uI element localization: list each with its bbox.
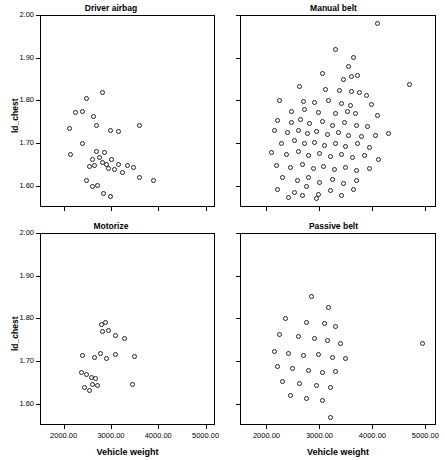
data-point [67, 126, 72, 131]
data-point [137, 175, 142, 180]
x-tick-label: 5000.00 [186, 431, 226, 440]
x-tick-mark [372, 207, 373, 211]
x-tick-label: 3000.00 [299, 431, 339, 440]
data-point [80, 141, 85, 146]
data-point [106, 328, 111, 333]
data-point [295, 178, 300, 183]
x-tick-label: 2000.00 [44, 431, 84, 440]
y-tick-mark [236, 15, 240, 16]
data-point [292, 138, 297, 143]
x-tick-label: 4000.00 [352, 431, 392, 440]
data-point [304, 320, 309, 325]
data-point [125, 163, 130, 168]
scatter-matrix-figure: Driver airbag 1.601.701.801.902.00ld_che… [0, 0, 445, 460]
x-tick-mark [266, 425, 267, 429]
data-point [365, 124, 370, 129]
data-point [275, 118, 280, 123]
data-point [312, 100, 317, 105]
y-tick-mark [36, 143, 40, 144]
data-point [346, 64, 351, 69]
data-point [275, 187, 280, 192]
panel-title: Passive belt [222, 220, 445, 233]
data-point [328, 415, 333, 420]
plot-area [240, 233, 436, 425]
data-point [94, 123, 99, 128]
data-point [279, 141, 284, 146]
y-tick-label: 1.60 [8, 181, 34, 190]
y-tick-mark [36, 58, 40, 59]
x-tick-mark [319, 425, 320, 429]
data-point [312, 140, 317, 145]
data-point [90, 184, 95, 189]
data-point [300, 162, 305, 167]
data-point [80, 109, 85, 114]
data-point [317, 180, 322, 185]
y-tick-mark [36, 186, 40, 187]
data-point [296, 334, 301, 339]
data-point [369, 102, 374, 107]
data-point [102, 150, 107, 155]
x-axis-label: Vehicle weight [40, 447, 215, 457]
data-point [309, 294, 314, 299]
data-point [320, 119, 325, 124]
data-point [330, 123, 335, 128]
data-point [92, 355, 97, 360]
data-point [328, 385, 333, 390]
data-point [289, 109, 294, 114]
y-tick-mark [36, 233, 40, 234]
data-point [84, 96, 89, 101]
data-point [272, 128, 277, 133]
x-tick-mark [319, 207, 320, 211]
y-tick-mark [236, 361, 240, 362]
data-point [328, 154, 333, 159]
data-point [73, 110, 78, 115]
data-point [275, 364, 280, 369]
plot-area [40, 233, 215, 425]
data-point [91, 114, 96, 119]
y-tick-mark [236, 404, 240, 405]
y-tick-mark [36, 404, 40, 405]
x-tick-label: 5000.00 [405, 431, 445, 440]
x-tick-mark [425, 207, 426, 211]
data-point [116, 162, 121, 167]
x-tick-mark [206, 207, 207, 211]
data-point [373, 133, 378, 138]
data-point [325, 338, 330, 343]
data-point [300, 193, 305, 198]
panel-driver-airbag: Driver airbag 1.601.701.801.902.00ld_che… [0, 2, 222, 220]
y-tick-label: 1.60 [8, 399, 34, 408]
data-point [316, 352, 321, 357]
data-point [84, 178, 89, 183]
panel-manual-belt: Manual belt [222, 2, 445, 220]
y-tick-mark [236, 233, 240, 234]
y-tick-mark [36, 276, 40, 277]
data-point [332, 167, 337, 172]
y-tick-label: 1.70 [8, 356, 34, 365]
x-tick-mark [111, 207, 112, 211]
data-point [311, 166, 316, 171]
x-tick-mark [158, 207, 159, 211]
data-point [322, 143, 327, 148]
data-point [116, 129, 121, 134]
x-tick-mark [64, 425, 65, 429]
data-point [297, 381, 302, 386]
y-tick-label: 1.90 [8, 271, 34, 280]
data-point [316, 110, 321, 115]
y-tick-label: 2.00 [8, 10, 34, 19]
y-axis-label: ld_chest [10, 99, 20, 134]
data-point [130, 382, 135, 387]
y-tick-mark [236, 276, 240, 277]
data-point [285, 130, 290, 135]
x-tick-mark [111, 425, 112, 429]
data-point [301, 99, 306, 104]
data-point [108, 128, 113, 133]
plot-area [40, 15, 215, 207]
data-point [151, 178, 156, 183]
data-point [333, 111, 338, 116]
x-tick-mark [158, 425, 159, 429]
data-point [304, 184, 309, 189]
data-point [103, 320, 108, 325]
y-tick-mark [236, 58, 240, 59]
data-point [420, 341, 425, 346]
y-tick-mark [36, 361, 40, 362]
